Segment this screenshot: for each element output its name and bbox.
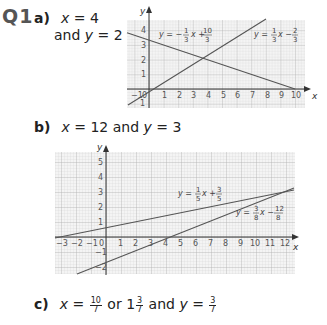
svg-text:3: 3 xyxy=(254,205,258,213)
denominator: 7 xyxy=(90,306,102,314)
graph-b-y-label: y xyxy=(96,142,103,152)
svg-text:2: 2 xyxy=(133,239,138,248)
svg-text:2: 2 xyxy=(177,91,182,100)
svg-text:3: 3 xyxy=(217,186,221,194)
part-c-label: c) xyxy=(34,296,49,312)
svg-text:3: 3 xyxy=(272,36,276,44)
svg-text:10: 10 xyxy=(203,27,212,35)
svg-text:y = −: y = − xyxy=(158,30,182,39)
svg-text:8: 8 xyxy=(265,91,270,100)
svg-text:−1: −1 xyxy=(86,239,98,248)
svg-text:4: 4 xyxy=(98,173,103,182)
svg-text:2: 2 xyxy=(293,27,297,35)
equals: = xyxy=(188,296,209,312)
svg-text:x −: x − xyxy=(277,30,292,39)
svg-text:5: 5 xyxy=(196,195,200,203)
svg-text:3: 3 xyxy=(98,188,103,197)
svg-text:2: 2 xyxy=(98,203,103,212)
x-fraction: 107 xyxy=(90,297,102,314)
svg-text:7: 7 xyxy=(250,91,255,100)
svg-text:5: 5 xyxy=(217,195,221,203)
svg-text:9: 9 xyxy=(238,239,243,248)
svg-text:4: 4 xyxy=(141,26,146,35)
denominator: 7 xyxy=(136,306,143,314)
part-b-answer: x = 12 and y = 3 xyxy=(62,119,182,135)
x-value: = 12 and xyxy=(70,119,144,135)
svg-text:4: 4 xyxy=(206,91,211,100)
denominator: 7 xyxy=(209,306,216,314)
svg-text:5: 5 xyxy=(178,239,183,248)
svg-text:9: 9 xyxy=(279,91,284,100)
svg-text:y =: y = xyxy=(235,208,250,217)
graph-a-y-label: y xyxy=(139,6,146,16)
svg-text:0: 0 xyxy=(99,239,104,248)
part-c-answer: x = 107 or 137 and y = 37 xyxy=(60,296,218,312)
svg-text:3: 3 xyxy=(205,36,209,44)
svg-text:6: 6 xyxy=(193,239,198,248)
svg-text:y =: y = xyxy=(177,189,192,198)
or-text: or 1 xyxy=(103,296,135,312)
var-y: y xyxy=(144,119,152,135)
svg-text:12: 12 xyxy=(275,205,284,213)
svg-text:3: 3 xyxy=(141,41,146,50)
equals: = xyxy=(68,296,89,312)
graph-a-x-label: x xyxy=(311,91,318,101)
svg-text:7: 7 xyxy=(208,239,213,248)
svg-text:1: 1 xyxy=(184,27,188,35)
svg-text:−1: −1 xyxy=(95,248,107,257)
part-c: c) x = 107 or 137 and y = 37 xyxy=(34,294,217,314)
svg-text:12: 12 xyxy=(280,239,290,248)
svg-text:5: 5 xyxy=(221,91,226,100)
svg-text:4: 4 xyxy=(163,239,168,248)
svg-text:8: 8 xyxy=(223,239,228,248)
y-fraction: 37 xyxy=(209,297,216,314)
part-b: b) x = 12 and y = 3 xyxy=(34,117,181,136)
var-x: x xyxy=(62,119,70,135)
svg-text:1: 1 xyxy=(141,70,146,79)
x-mixed-fraction: 37 xyxy=(136,297,143,314)
svg-text:3: 3 xyxy=(191,91,196,100)
graph-b-x-label: x xyxy=(292,242,299,252)
svg-text:y =: y = xyxy=(253,30,268,39)
var-y: y xyxy=(179,296,187,312)
svg-text:8: 8 xyxy=(254,214,258,222)
svg-text:11: 11 xyxy=(265,239,275,248)
svg-text:8: 8 xyxy=(276,214,280,222)
svg-text:1: 1 xyxy=(162,91,167,100)
svg-text:3: 3 xyxy=(184,36,188,44)
svg-text:−2: −2 xyxy=(71,239,83,248)
svg-text:x −: x − xyxy=(259,208,274,217)
svg-text:1: 1 xyxy=(98,218,103,227)
svg-text:x +: x + xyxy=(201,189,216,198)
y-value: = 3 xyxy=(152,119,182,135)
svg-text:3: 3 xyxy=(293,36,297,44)
svg-text:10: 10 xyxy=(291,91,301,100)
svg-text:3: 3 xyxy=(148,239,153,248)
svg-text:1: 1 xyxy=(272,27,276,35)
svg-text:1: 1 xyxy=(118,239,123,248)
svg-text:10: 10 xyxy=(250,239,260,248)
svg-text:2: 2 xyxy=(141,56,146,65)
svg-text:6: 6 xyxy=(235,91,240,100)
and-text: and xyxy=(144,296,179,312)
svg-text:−3: −3 xyxy=(56,239,68,248)
graph-a: y x −1 0 1 2 3 4 5 6 7 8 9 10 4 3 2 1 1 … xyxy=(0,0,327,325)
svg-text:5: 5 xyxy=(98,158,103,167)
part-b-label: b) xyxy=(34,119,50,135)
svg-text:1: 1 xyxy=(196,186,200,194)
svg-text:1: 1 xyxy=(140,99,145,108)
var-x: x xyxy=(60,296,68,312)
